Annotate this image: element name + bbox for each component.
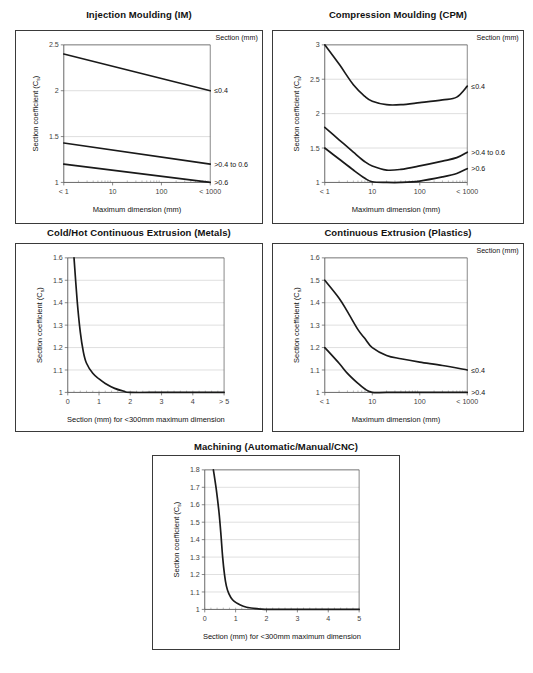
x-tick-label: 1: [234, 615, 238, 623]
chart-svg-machining: 11.11.21.31.41.51.61.71.8012345Section c…: [153, 456, 399, 649]
legend-entry: >0.6: [471, 165, 485, 173]
x-tick-label: 4: [191, 398, 195, 406]
chart-panel-injection-moulding: 11.522.5< 110100< 1000Section (mm)≤0.4>0…: [15, 30, 263, 224]
series-line: [64, 54, 210, 91]
series-line: [325, 45, 468, 105]
data-series: [325, 280, 467, 392]
x-tick-label: 3: [160, 398, 164, 406]
y-tick-label: 1.3: [190, 554, 200, 562]
chart-panel-continuous-extrusion-plastics: 11.11.21.31.41.51.6< 110100< 1000Section…: [272, 243, 524, 432]
x-tick-label: 5: [357, 615, 361, 623]
chart-panel-machining: 11.11.21.31.41.51.61.71.8012345Section c…: [152, 455, 400, 650]
x-tick-label: 2: [265, 615, 269, 623]
y-tick-label: 1: [316, 179, 320, 187]
y-axis-title: Section coefficient (Cs): [292, 287, 302, 363]
series-line: [325, 148, 468, 183]
y-tick-label: 1.5: [310, 277, 320, 285]
x-axis-title: Section (mm) for <300mm maximum dimensio…: [203, 632, 361, 641]
y-tick-label: 1: [55, 179, 59, 187]
x-tick-label: 100: [414, 188, 426, 196]
y-tick-label: 1.2: [190, 571, 200, 579]
x-axis-title: Maximum dimension (mm): [93, 205, 182, 214]
y-tick-label: 1.5: [310, 145, 320, 153]
gridlines: [68, 258, 224, 370]
x-tick-label: 10: [368, 398, 376, 406]
y-tick-label: 1.5: [190, 519, 200, 527]
x-axis-title: Maximum dimension (mm): [352, 415, 441, 424]
y-tick-label: 1.8: [190, 466, 200, 474]
chart-title-continuous-extrusion-plastics: Continuous Extrusion (Plastics): [272, 227, 524, 238]
x-tick-label: < 1: [59, 188, 69, 196]
x-tick-label: 100: [414, 398, 426, 406]
x-axis-title: Section (mm) for <300mm maximum dimensio…: [67, 415, 225, 424]
x-tick-label: 10: [109, 188, 117, 196]
x-tick-label: 0: [66, 398, 70, 406]
x-axis-title: Maximum dimension (mm): [352, 205, 441, 214]
y-tick-label: 1.5: [53, 277, 63, 285]
y-axis-title: Section coefficient (Cs): [292, 75, 302, 151]
x-tick-label: 4: [326, 615, 330, 623]
y-axis-title: Section coefficient (Cs): [172, 501, 182, 577]
y-tick-label: 2: [316, 110, 320, 118]
y-tick-label: 1.2: [53, 344, 63, 352]
legend-entry: >0.4 to 0.6: [214, 161, 248, 169]
y-tick-label: 1.1: [190, 589, 200, 597]
y-tick-label: 1.6: [310, 254, 320, 262]
gridlines: [64, 45, 210, 137]
gridlines: [205, 470, 359, 592]
y-tick-label: 1: [316, 389, 320, 397]
y-tick-label: 1.7: [190, 484, 200, 492]
y-axis: 11.522.53: [310, 41, 325, 187]
gridlines: [325, 258, 467, 370]
y-tick-label: 3: [316, 41, 320, 49]
chart-title-cold-hot-extrusion: Cold/Hot Continuous Extrusion (Metals): [15, 227, 263, 238]
chart-title-machining: Machining (Automatic/Manual/CNC): [152, 441, 400, 452]
legend-entry: ≤0.4: [471, 83, 485, 91]
y-tick-label: 1.6: [190, 501, 200, 509]
y-tick-label: 2.5: [310, 76, 320, 84]
x-tick-label: < 1000: [456, 188, 478, 196]
y-axis: 11.11.21.31.41.51.6: [53, 254, 68, 397]
legend-entry: ≤0.4: [214, 87, 228, 95]
chart-title-injection-moulding: Injection Moulding (IM): [15, 9, 263, 20]
chart-panel-compression-moulding: 11.522.53< 110100< 1000Section (mm)≤0.4>…: [272, 30, 524, 224]
y-tick-label: 1.1: [310, 367, 320, 375]
x-tick-label: 100: [155, 188, 167, 196]
plot-frame: [64, 45, 210, 183]
gridlines: [325, 45, 468, 148]
chart-svg-cold-hot-extrusion: 11.11.21.31.41.51.601234> 5Section coeff…: [16, 244, 262, 431]
legend-entry: ≤0.4: [471, 367, 485, 375]
y-tick-label: 1.6: [53, 254, 63, 262]
y-tick-label: 1.2: [310, 344, 320, 352]
y-axis: 11.11.21.31.41.51.6: [310, 254, 325, 397]
legend-entry: >0.4 to 0.6: [471, 149, 505, 157]
y-axis-title: Section coefficient (Cs): [31, 75, 41, 151]
x-tick-label: 1: [97, 398, 101, 406]
x-tick-label: 3: [295, 615, 299, 623]
y-axis: 11.522.5: [49, 41, 64, 187]
x-tick-label: 10: [368, 188, 376, 196]
y-axis: 11.11.21.31.41.51.61.71.8: [190, 466, 205, 614]
chart-svg-injection-moulding: 11.522.5< 110100< 1000Section (mm)≤0.4>0…: [16, 31, 262, 223]
series-line: [64, 164, 210, 182]
x-tick-label: > 5: [219, 398, 229, 406]
legend-title: Section (mm): [476, 34, 518, 42]
series-line: [64, 143, 210, 164]
y-tick-label: 1.4: [53, 299, 63, 307]
y-tick-label: 1: [196, 606, 200, 614]
y-tick-label: 1.5: [49, 133, 59, 141]
legend: Section (mm)≤0.4>0.4 to 0.6>0.6: [471, 34, 519, 173]
legend-entry: >0.4: [471, 389, 485, 397]
chart-svg-compression-moulding: 11.522.53< 110100< 1000Section (mm)≤0.4>…: [273, 31, 523, 223]
y-tick-label: 1.1: [53, 367, 63, 375]
y-tick-label: 1.3: [53, 322, 63, 330]
data-series: [64, 54, 210, 182]
legend-entry: >0.6: [214, 179, 228, 187]
chart-svg-continuous-extrusion-plastics: 11.11.21.31.41.51.6< 110100< 1000Section…: [273, 244, 523, 431]
x-tick-label: 2: [128, 398, 132, 406]
legend-title: Section (mm): [476, 247, 518, 255]
x-tick-label: < 1: [320, 188, 330, 196]
chart-panel-cold-hot-extrusion: 11.11.21.31.41.51.601234> 5Section coeff…: [15, 243, 263, 432]
y-tick-label: 1.3: [310, 322, 320, 330]
y-tick-label: 1.4: [310, 299, 320, 307]
